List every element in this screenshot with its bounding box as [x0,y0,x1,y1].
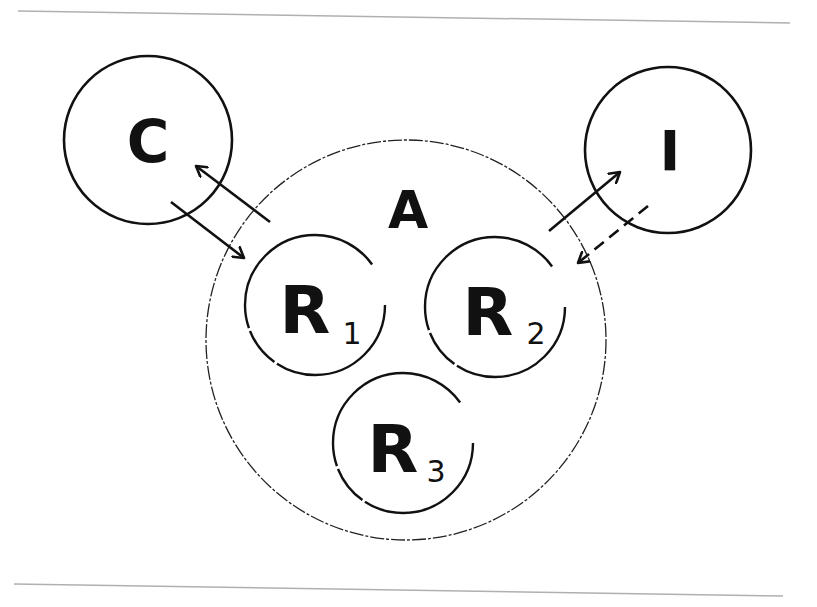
node-c: C [64,56,232,224]
node-r1: R 1 [245,235,385,375]
node-a-label: A [388,180,428,240]
node-r2-label: R [463,274,514,351]
node-i-label: I [660,118,681,183]
arrow-a-to-i [549,172,620,231]
node-c-label: C [127,108,170,176]
node-i: I [585,67,751,233]
node-r3-subscript: 3 [426,454,445,489]
node-r3-label: R [368,411,419,488]
bottom-rule [14,584,783,596]
arrow-a-to-c [196,166,270,222]
node-r1-subscript: 1 [342,316,361,351]
arrow-c-to-r1 [171,202,244,258]
node-r1-label: R [280,272,331,349]
node-r2-subscript: 2 [526,316,545,351]
node-r2: R 2 [425,237,565,377]
top-rule [18,11,790,23]
diagram-canvas: A C I R 1 R 2 R 3 [0,0,817,607]
arrow-i-to-r2-dashed [578,206,648,263]
node-r3: R 3 [333,373,473,513]
